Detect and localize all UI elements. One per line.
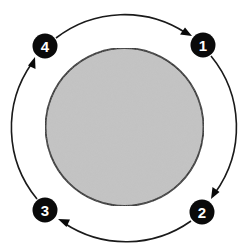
arrow-3-to-4	[11, 63, 37, 199]
step-badge-3: 3	[33, 198, 58, 223]
step-badge-4: 4	[33, 34, 58, 59]
center-circle	[46, 48, 204, 206]
badge-label: 4	[41, 38, 50, 55]
badge-label: 2	[198, 204, 206, 221]
badge-label: 3	[41, 202, 49, 219]
arrow-1-to-2	[211, 56, 236, 193]
step-badge-2: 2	[190, 200, 215, 225]
arrowhead-to-1	[180, 28, 192, 37]
arrow-2-to-3	[64, 221, 191, 242]
cycle-diagram: 1 2 3 4	[0, 0, 252, 252]
arrow-4-to-1	[56, 15, 186, 38]
step-badge-1: 1	[191, 33, 216, 58]
badge-label: 1	[199, 37, 207, 54]
